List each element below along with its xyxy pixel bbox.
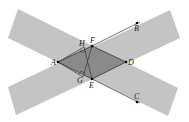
label-A: A (50, 58, 56, 67)
label-G: G (77, 76, 83, 85)
label-B: B (134, 24, 139, 33)
point-D (125, 61, 128, 64)
point-F (91, 45, 94, 48)
label-D: D (127, 58, 134, 67)
label-C: C (134, 92, 140, 101)
label-F: F (89, 36, 95, 45)
geometry-diagram: A F D E H G B C (0, 0, 189, 122)
point-A (57, 61, 60, 64)
point-C (136, 101, 139, 104)
label-E: E (88, 81, 94, 90)
point-E (91, 78, 94, 81)
